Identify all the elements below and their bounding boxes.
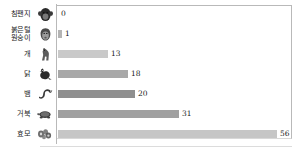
bar-snake — [58, 90, 135, 98]
bar-yeast — [58, 130, 277, 138]
chart-row: 거북 31 — [0, 104, 293, 124]
bar-value-dog: 13 — [111, 50, 121, 58]
bar-value-turtle: 31 — [182, 110, 192, 118]
chimpanzee-icon — [34, 4, 56, 24]
bar-value-rhesus-macaque: 1 — [65, 30, 70, 38]
yeast-icon — [34, 124, 56, 144]
bar-chart: 침팬지 0 붉은털 원숭이 — [0, 0, 293, 151]
rhesus-macaque-icon — [34, 24, 56, 44]
category-label-dog: 개 — [0, 50, 34, 58]
category-label-snake: 뱀 — [0, 90, 34, 98]
plot-cell: 1 — [56, 24, 293, 44]
plot-cell: 31 — [56, 104, 293, 124]
plot-cell: 56 — [56, 124, 293, 144]
chart-row: 개 13 — [0, 44, 293, 64]
bar-value-yeast: 56 — [280, 130, 290, 138]
bar-value-chimpanzee: 0 — [61, 10, 66, 18]
bar-chicken — [58, 70, 128, 78]
category-label-rhesus-macaque: 붉은털 원숭이 — [0, 26, 34, 43]
plot-cell: 13 — [56, 44, 293, 64]
category-label-turtle: 거북 — [0, 110, 34, 118]
turtle-icon — [34, 104, 56, 124]
chart-baseline — [40, 146, 292, 147]
plot-cell: 18 — [56, 64, 293, 84]
chart-row: 뱀 20 — [0, 84, 293, 104]
bar-dog — [58, 50, 108, 58]
chart-row: 효모 56 — [0, 124, 293, 144]
chart-row: 닭 18 — [0, 64, 293, 84]
chart-row: 침팬지 0 — [0, 4, 293, 24]
bar-value-chicken: 18 — [131, 70, 141, 78]
bar-turtle — [58, 110, 179, 118]
snake-icon — [34, 84, 56, 104]
plot-cell: 0 — [56, 4, 293, 24]
dog-icon — [34, 44, 56, 64]
bar-rhesus-macaque — [58, 30, 62, 38]
chart-rows: 침팬지 0 붉은털 원숭이 — [0, 4, 293, 144]
chicken-icon — [34, 64, 56, 84]
bar-value-snake: 20 — [138, 90, 148, 98]
category-label-chicken: 닭 — [0, 70, 34, 78]
chart-row: 붉은털 원숭이 1 — [0, 24, 293, 44]
plot-cell: 20 — [56, 84, 293, 104]
category-label-yeast: 효모 — [0, 130, 34, 138]
category-label-chimpanzee: 침팬지 — [0, 10, 34, 18]
